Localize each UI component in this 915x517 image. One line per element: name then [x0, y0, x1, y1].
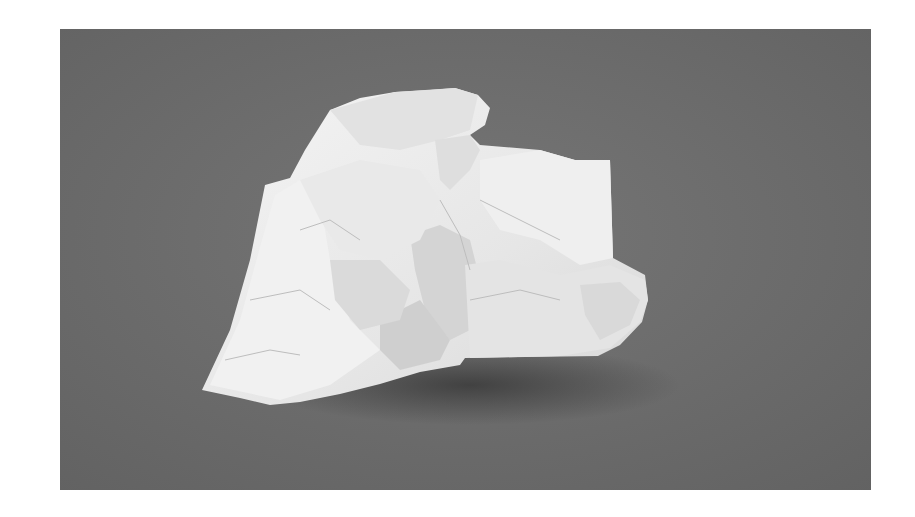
- crumpled-paper-illustration: [60, 29, 871, 490]
- photo-frame: [60, 29, 871, 490]
